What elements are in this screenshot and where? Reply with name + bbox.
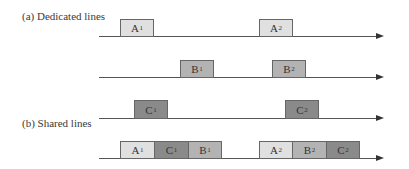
block-letter: A <box>270 22 278 34</box>
dedicated-lines-label: (a) Dedicated lines <box>22 10 105 22</box>
block-letter: A <box>131 22 139 34</box>
block-subscript: 2 <box>278 146 282 154</box>
block-a1: A1 <box>120 19 154 37</box>
block-subscript: 2 <box>345 146 349 154</box>
block-b2: B2 <box>272 60 306 78</box>
block-letter: B <box>199 144 206 156</box>
block-subscript: 1 <box>174 146 178 154</box>
shared-block-c2: C2 <box>326 141 360 159</box>
block-letter: B <box>191 63 198 75</box>
block-c2: C2 <box>285 100 319 119</box>
block-b1: B1 <box>180 60 214 78</box>
block-letter: C <box>145 104 152 116</box>
shared-block-a2: A2 <box>259 141 293 159</box>
shared-lines-label: (b) Shared lines <box>22 117 92 129</box>
block-subscript: 1 <box>140 146 144 154</box>
shared-block-a1: A1 <box>120 141 155 159</box>
shared-block-c1: C1 <box>154 141 189 159</box>
block-subscript: 2 <box>312 146 316 154</box>
block-letter: B <box>304 144 311 156</box>
block-letter: A <box>132 144 140 156</box>
block-subscript: 1 <box>139 24 143 32</box>
block-subscript: 2 <box>291 65 295 73</box>
block-letter: C <box>296 104 303 116</box>
block-subscript: 1 <box>207 146 211 154</box>
block-subscript: 2 <box>304 106 308 114</box>
arrow-icon <box>376 33 384 39</box>
block-letter: B <box>283 63 290 75</box>
block-subscript: 2 <box>278 24 282 32</box>
block-subscript: 1 <box>199 65 203 73</box>
block-a2: A2 <box>259 19 293 37</box>
block-subscript: 1 <box>153 106 157 114</box>
block-letter: C <box>166 144 173 156</box>
arrow-icon <box>376 155 384 161</box>
arrow-icon <box>376 115 384 121</box>
block-letter: A <box>270 144 278 156</box>
shared-block-b1: B1 <box>188 141 222 159</box>
block-letter: C <box>337 144 344 156</box>
shared-block-b2: B2 <box>292 141 327 159</box>
timeline-b <box>99 77 377 78</box>
arrow-icon <box>376 74 384 80</box>
block-c1: C1 <box>134 100 168 119</box>
